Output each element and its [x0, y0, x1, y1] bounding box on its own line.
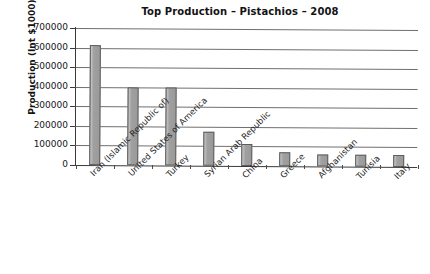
chart-container: Top Production – Pistachios – 2008 Produ…	[0, 0, 430, 274]
x-axis-tick	[304, 165, 305, 169]
gridlines	[76, 28, 418, 30]
y-axis-tick-label: 400000	[4, 81, 68, 91]
x-axis-tick	[380, 165, 381, 169]
x-axis-tick	[266, 165, 267, 169]
y-axis-tick	[70, 48, 75, 49]
x-axis-tick	[190, 165, 191, 169]
y-axis-tick-label: 300000	[4, 100, 68, 110]
x-axis-tick	[418, 165, 419, 169]
y-axis-tick-label: 200000	[4, 120, 68, 130]
y-axis-tick-label: 500000	[4, 61, 68, 71]
y-axis-tick	[70, 67, 75, 68]
chart-title: Top Production – Pistachios – 2008	[60, 6, 420, 17]
x-axis-tick	[342, 165, 343, 169]
x-axis-tick	[152, 165, 153, 169]
gridline	[76, 28, 418, 31]
y-axis-tick	[70, 126, 75, 127]
y-axis-tick-label: 700000	[4, 22, 68, 32]
gridline	[76, 48, 418, 51]
gridline	[76, 67, 418, 70]
y-axis-tick	[70, 106, 75, 107]
y-axis-tick-label: 600000	[4, 42, 68, 52]
y-axis-tick-label: 100000	[4, 139, 68, 149]
y-axis-tick	[70, 28, 75, 29]
y-axis-tick	[70, 145, 75, 146]
x-axis-tick	[114, 165, 115, 169]
x-axis-tick	[228, 165, 229, 169]
x-axis-tick	[76, 165, 77, 169]
y-axis-tick-label: 0	[4, 159, 68, 169]
y-axis-tick	[70, 87, 75, 88]
bar	[89, 45, 101, 165]
